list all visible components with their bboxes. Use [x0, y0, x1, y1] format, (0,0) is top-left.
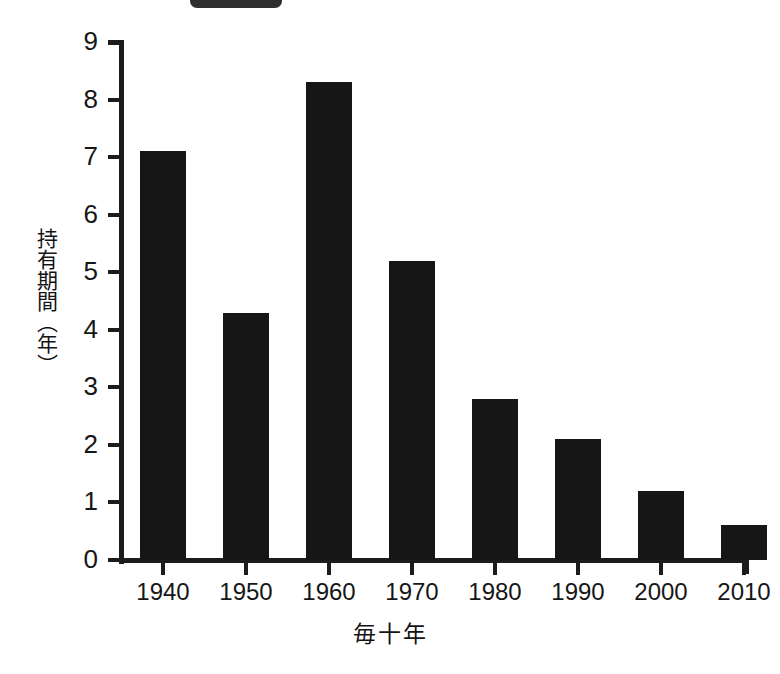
- y-axis-tick: [108, 270, 121, 274]
- y-axis-title: 持有期間（年）: [22, 228, 58, 375]
- bar: [140, 151, 186, 560]
- y-axis-tick-label: 1: [52, 488, 98, 514]
- bar: [555, 439, 601, 560]
- y-axis-tick: [108, 155, 121, 159]
- x-axis-tick-label: 2010: [694, 578, 780, 606]
- y-axis-tick-label: 0: [52, 546, 98, 572]
- y-axis-tick: [108, 500, 121, 504]
- y-axis-tick-label: 5: [52, 258, 98, 284]
- x-axis-tick: [659, 562, 663, 575]
- bar: [721, 525, 767, 560]
- y-axis-tick: [108, 385, 121, 389]
- x-axis-tick: [576, 562, 580, 575]
- y-axis-tick-label: 9: [52, 28, 98, 54]
- y-axis-tick-label: 3: [52, 373, 98, 399]
- y-axis-tick-label: 2: [52, 431, 98, 457]
- y-axis-tick: [108, 328, 121, 332]
- x-axis-tick: [161, 562, 165, 575]
- x-axis-title: 毎十年: [0, 620, 780, 648]
- y-axis-tick-label: 8: [52, 86, 98, 112]
- y-axis-tick: [108, 98, 121, 102]
- y-axis-tick-label: 7: [52, 143, 98, 169]
- bar: [306, 82, 352, 560]
- y-axis-tick: [108, 443, 121, 447]
- y-axis-line: [119, 40, 124, 564]
- bar: [472, 399, 518, 560]
- x-axis-tick: [493, 562, 497, 575]
- x-axis-tick: [410, 562, 414, 575]
- bar: [223, 313, 269, 560]
- y-axis-tick-label: 4: [52, 316, 98, 342]
- y-axis-tick: [108, 558, 121, 562]
- x-axis-tick: [327, 562, 331, 575]
- bar-chart: 9876543210 19401950196019701980199020002…: [0, 0, 780, 674]
- bar: [638, 491, 684, 560]
- y-axis-tick: [108, 213, 121, 217]
- y-axis-tick: [108, 40, 121, 44]
- y-axis-tick-label: 6: [52, 201, 98, 227]
- x-axis-tick: [742, 562, 746, 575]
- x-axis-tick: [244, 562, 248, 575]
- bar: [389, 261, 435, 560]
